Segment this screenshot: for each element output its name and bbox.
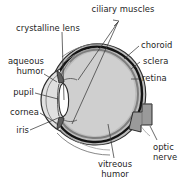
label-retina: retina	[142, 74, 167, 84]
label-aqueous-humor: aqueous humor	[0, 57, 44, 76]
label-choroid: choroid	[141, 41, 172, 51]
eye-anatomy-diagram: ciliary muscles crystalline lens aqueous…	[0, 0, 190, 188]
label-pupil-line1: pupil	[13, 87, 34, 97]
label-ciliary-muscles: ciliary muscles	[78, 5, 168, 15]
label-cornea-line1: cornea	[10, 107, 39, 117]
label-iris: iris	[0, 126, 29, 136]
label-iris-line1: iris	[16, 125, 29, 135]
label-retina-line1: retina	[142, 73, 167, 83]
label-optic-nerve: optic nerve	[153, 143, 177, 162]
label-sclera-line1: sclera	[143, 56, 168, 66]
label-crystalline-lens-line1: crystalline lens	[16, 23, 80, 33]
leader-optic-nerve	[150, 126, 157, 140]
label-vitreous-humor-line2: humor	[87, 170, 143, 180]
label-sclera: sclera	[143, 57, 168, 67]
label-aqueous-humor-line2: humor	[0, 67, 44, 77]
label-ciliary-muscles-line1: ciliary muscles	[92, 4, 155, 14]
label-vitreous-humor: vitreous humor	[87, 160, 143, 179]
label-pupil: pupil	[0, 88, 34, 98]
leader-choroid	[124, 46, 139, 59]
label-choroid-line1: choroid	[141, 40, 172, 50]
label-cornea: cornea	[0, 108, 39, 118]
label-crystalline-lens: crystalline lens	[16, 24, 80, 34]
label-optic-nerve-line2: nerve	[153, 153, 177, 163]
